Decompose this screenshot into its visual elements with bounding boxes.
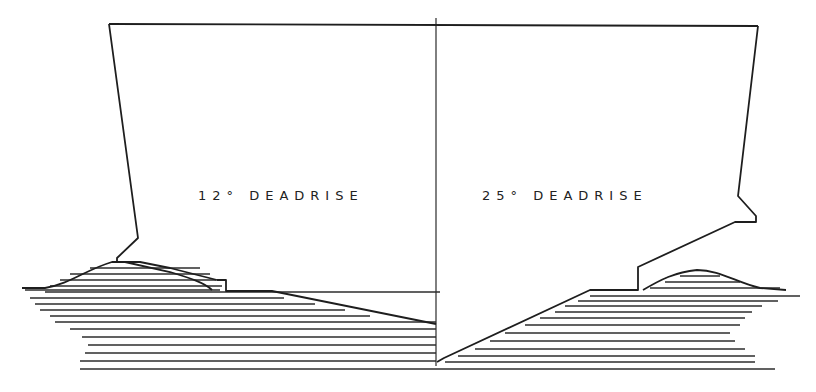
deadrise-comparison-diagram [0,0,816,392]
label-12-deg-deadrise: 12° DEADRISE [198,188,364,203]
deck-line [109,24,758,26]
right-spray-wave [643,270,786,290]
label-25-deg-deadrise: 25° DEADRISE [482,188,648,203]
hull-12-deg-deadrise [109,24,436,324]
